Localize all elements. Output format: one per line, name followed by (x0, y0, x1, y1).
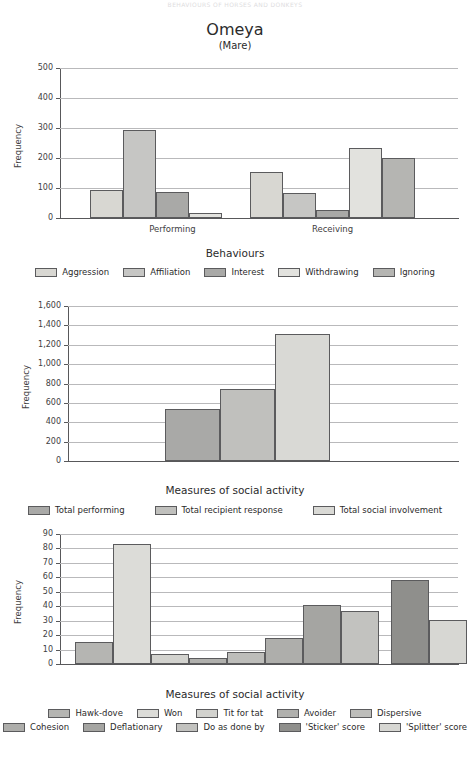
axis-tick (56, 98, 60, 99)
legend-item[interactable]: 'Sticker' score (279, 722, 365, 732)
bar (275, 334, 330, 461)
legend-item[interactable]: Hawk-dove (48, 708, 122, 718)
social-strategy-chart: 0102030405060708090FrequencyMeasures of … (0, 528, 470, 778)
bar (227, 652, 265, 664)
y-axis-tick-label: 10 (20, 645, 53, 654)
y-axis-tick-label: 500 (20, 63, 53, 72)
legend-swatch-icon (277, 709, 299, 718)
legend-label: Affiliation (150, 267, 190, 277)
y-axis-tick-label: 0 (20, 213, 53, 222)
axis-tick (56, 664, 60, 665)
bar (283, 193, 316, 218)
legend-swatch-icon (83, 723, 105, 732)
y-axis-tick-label: 80 (20, 543, 53, 552)
gridline (68, 325, 458, 326)
legend-swatch-icon (176, 723, 198, 732)
gridline (68, 306, 458, 307)
y-axis-title: Frequency (21, 365, 31, 409)
legend-social-strategy: Hawk-doveWonTit for tatAvoiderDispersive… (0, 708, 470, 736)
legend-item[interactable]: Cohesion (3, 722, 69, 732)
legend-item[interactable]: Won (137, 708, 183, 718)
axis-tick (64, 345, 68, 346)
legend-row: CohesionDeflationaryDo as done by'Sticke… (0, 722, 470, 732)
gridline (60, 68, 458, 69)
legend-swatch-icon (379, 723, 401, 732)
legend-label: Total social involvement (340, 505, 442, 515)
page-title: Omeya (0, 22, 470, 39)
gridline (60, 128, 458, 129)
legend-swatch-icon (48, 709, 70, 718)
gridline (60, 98, 458, 99)
y-axis-tick-label: 600 (28, 398, 61, 407)
legend-label: Withdrawing (305, 267, 359, 277)
legend-item[interactable]: Dispersive (350, 708, 422, 718)
axis-tick (56, 218, 60, 219)
axis-tick (56, 128, 60, 129)
bar (382, 158, 415, 218)
legend-item[interactable]: Affiliation (123, 267, 190, 277)
x-axis-category-label: Receiving (240, 224, 425, 234)
y-axis-tick-label: 20 (20, 630, 53, 639)
legend-label: Interest (231, 267, 264, 277)
legend-label: 'Sticker' score (306, 722, 365, 732)
legend-item[interactable]: Total recipient response (155, 505, 283, 515)
y-axis-title: Frequency (13, 580, 23, 624)
axis-tick (64, 306, 68, 307)
axis-tick (56, 621, 60, 622)
legend-item[interactable]: Interest (204, 267, 264, 277)
bar (113, 544, 151, 664)
y-axis-tick-label: 30 (20, 616, 53, 625)
y-axis-tick-label: 40 (20, 601, 53, 610)
y-axis-tick-label: 0 (20, 659, 53, 668)
legend-item[interactable]: Aggression (35, 267, 109, 277)
legend-item[interactable]: Deflationary (83, 722, 162, 732)
axis-tick (56, 158, 60, 159)
bar (165, 409, 220, 461)
axis-tick (64, 325, 68, 326)
x-axis-category-label: Performing (80, 224, 265, 234)
legend-label: Total performing (55, 505, 125, 515)
axis-tick (64, 403, 68, 404)
axis-tick (56, 606, 60, 607)
y-axis-tick-label: 90 (20, 529, 53, 538)
axis-tick (56, 563, 60, 564)
axis-tick (64, 461, 68, 462)
legend-item[interactable]: Total social involvement (313, 505, 442, 515)
axis-tick (64, 384, 68, 385)
y-axis-tick-label: 100 (20, 183, 53, 192)
legend-item[interactable]: Total performing (28, 505, 125, 515)
legend-item[interactable]: Withdrawing (278, 267, 359, 277)
x-axis-title: Measures of social activity (0, 484, 470, 496)
legend-item[interactable]: 'Splitter' score (379, 722, 467, 732)
legend-label: Tit for tat (223, 708, 263, 718)
bar (391, 580, 429, 664)
bar (429, 620, 467, 664)
legend-swatch-icon (313, 506, 335, 515)
legend-swatch-icon (123, 268, 145, 277)
y-axis-tick-label: 1,400 (28, 320, 61, 329)
running-head: BEHAVIOURS OF HORSES AND DONKEYS (0, 1, 470, 8)
legend-label: Avoider (304, 708, 336, 718)
legend-item[interactable]: Avoider (277, 708, 336, 718)
legend-swatch-icon (196, 709, 218, 718)
y-axis-tick-label: 1,200 (28, 340, 61, 349)
axis-tick (56, 548, 60, 549)
bar (151, 654, 189, 664)
y-axis-tick-label: 60 (20, 572, 53, 581)
legend-item[interactable]: Ignoring (373, 267, 435, 277)
legend-label: Hawk-dove (75, 708, 122, 718)
legend-swatch-icon (204, 268, 226, 277)
bar (156, 192, 189, 218)
legend-item[interactable]: Tit for tat (196, 708, 263, 718)
legend-swatch-icon (137, 709, 159, 718)
legend-label: Deflationary (110, 722, 162, 732)
legend-item[interactable]: Do as done by (176, 722, 264, 732)
legend-swatch-icon (350, 709, 372, 718)
legend-swatch-icon (3, 723, 25, 732)
legend-label: Dispersive (377, 708, 422, 718)
legend-label: Total recipient response (182, 505, 283, 515)
y-axis-tick-label: 800 (28, 379, 61, 388)
bar (75, 642, 113, 664)
bar (123, 130, 156, 218)
axis-tick (56, 577, 60, 578)
